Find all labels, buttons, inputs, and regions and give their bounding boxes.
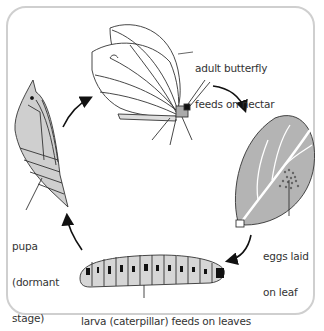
- adult-label-line2: feeds on nectar: [195, 98, 274, 110]
- eggs-label: eggs laid on leaf: [263, 226, 309, 310]
- leaf-icon: [235, 116, 314, 227]
- pupa-label-line3: stage): [12, 312, 59, 324]
- adult-label: adult butterfly feeds on nectar: [195, 38, 274, 122]
- pupa-label-line2: (dormant: [12, 276, 59, 288]
- larva-label-line1: larva (caterpillar) feeds on leaves: [81, 315, 251, 327]
- butterfly-icon: [92, 25, 210, 145]
- larva-label: larva (caterpillar) feeds on leaves: [81, 291, 251, 331]
- pupa-label: pupa (dormant stage): [12, 216, 59, 331]
- adult-label-line1: adult butterfly: [195, 62, 274, 74]
- pupa-label-line1: pupa: [12, 240, 59, 252]
- eggs-label-line2: on leaf: [263, 286, 309, 298]
- arrow-larva-to-pupa: [67, 216, 82, 250]
- arrow-pupa-to-adult: [63, 98, 90, 127]
- eggs-label-line1: eggs laid: [263, 250, 309, 262]
- arrow-eggs-to-larva: [228, 235, 251, 261]
- pupa-icon: [15, 80, 68, 210]
